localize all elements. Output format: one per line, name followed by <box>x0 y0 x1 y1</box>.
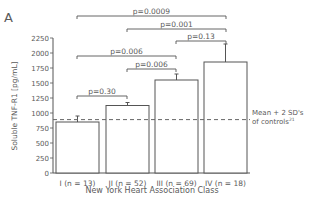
bar: II (n = 52) <box>106 103 149 189</box>
x-axis-label: New York Heart Association Class <box>85 186 218 195</box>
y-tick-label: 1750 <box>31 65 49 73</box>
y-tick-label: 2250 <box>31 35 49 43</box>
p-value-label: p=0.006 <box>110 47 143 56</box>
p-value-label: p=0.13 <box>187 32 215 41</box>
y-tick-label: 1000 <box>31 110 49 118</box>
comparison-bracket: p=0.006 <box>77 47 176 59</box>
y-tick-label: 2000 <box>31 50 49 58</box>
panel-label: A <box>4 10 13 25</box>
comparison-bracket: p=0.006 <box>127 60 176 72</box>
bar: IV (n = 18) <box>204 44 247 188</box>
svg-text:Mean + 2 SD's: Mean + 2 SD's <box>252 109 304 117</box>
y-tick-label: 1250 <box>31 95 49 103</box>
p-value-label: p=0.006 <box>135 60 168 69</box>
y-tick-label: 500 <box>36 140 49 148</box>
p-value-label: p=0.30 <box>88 87 116 96</box>
y-axis-label: Soluble TNF-R1 [pg/mL] <box>10 61 19 150</box>
p-value-label: p=0.001 <box>160 20 193 29</box>
bar: I (n = 13) <box>56 116 99 188</box>
comparison-bracket: p=0.001 <box>127 20 226 32</box>
bar-chart: A 0250500750100012501500175020002250 I (… <box>0 0 315 208</box>
y-tick-label: 750 <box>36 125 49 133</box>
y-tick-label: 250 <box>36 155 49 163</box>
y-tick-label: 0 <box>45 170 49 178</box>
svg-text:of controls21: of controls21 <box>252 117 295 126</box>
bar: III (n = 69) <box>155 74 198 188</box>
p-value-label: p=0.0009 <box>133 7 171 16</box>
comparison-bracket: p=0.30 <box>77 87 127 99</box>
comparison-bracket: p=0.0009 <box>77 7 226 19</box>
comparison-bracket: p=0.13 <box>176 32 226 44</box>
y-tick-label: 1500 <box>31 80 49 88</box>
